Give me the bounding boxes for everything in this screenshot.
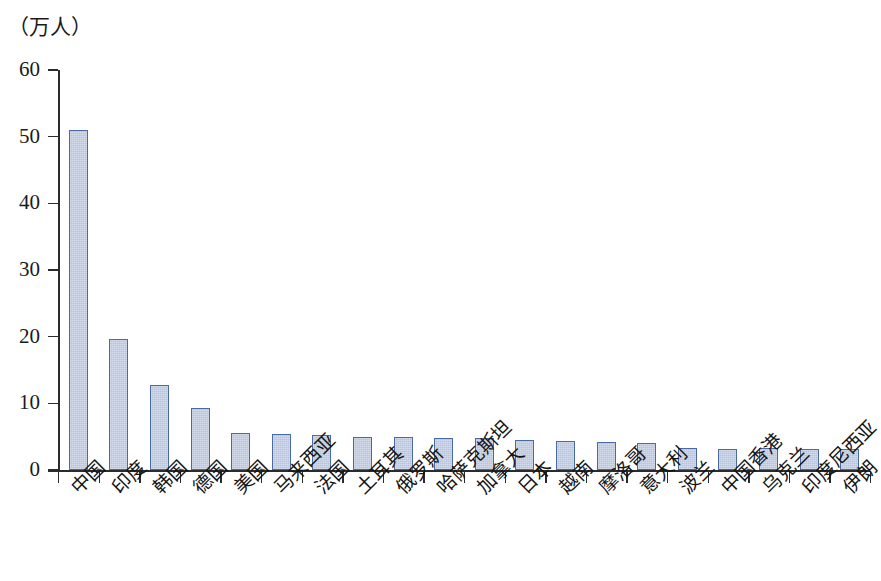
y-axis-tick-label: 20 xyxy=(0,326,40,347)
y-axis-tick xyxy=(48,136,58,138)
y-axis-tick-label: 40 xyxy=(0,192,40,213)
y-axis-tick xyxy=(48,469,58,471)
y-axis-tick xyxy=(48,336,58,338)
y-axis-unit-label: （万人） xyxy=(8,10,92,40)
y-axis-tick-label: 0 xyxy=(0,459,40,480)
x-axis-category-labels: 中国印度韩国德国美国马来西亚法国土耳其俄罗斯哈萨克斯坦加拿大日本越南摩洛哥意大利… xyxy=(58,484,870,581)
y-axis-line xyxy=(58,70,60,470)
y-axis-tick-label: 50 xyxy=(0,126,40,147)
y-axis-tick xyxy=(48,203,58,205)
bar xyxy=(150,385,169,470)
y-axis-tick-label: 30 xyxy=(0,259,40,280)
y-axis-tick-label: 60 xyxy=(0,59,40,80)
x-axis-tick xyxy=(58,471,59,483)
y-axis-tick-label: 10 xyxy=(0,392,40,413)
y-axis-tick xyxy=(48,269,58,271)
y-axis-tick xyxy=(48,69,58,71)
y-axis-tick xyxy=(48,403,58,405)
plot-area: 0102030405060 xyxy=(58,70,870,470)
bar xyxy=(109,339,128,470)
bar xyxy=(191,408,210,470)
bar xyxy=(69,130,88,470)
